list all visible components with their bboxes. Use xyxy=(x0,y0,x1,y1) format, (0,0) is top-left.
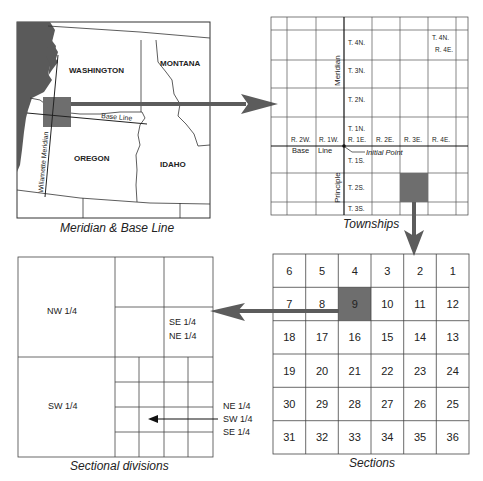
section-24: 24 xyxy=(447,365,459,377)
plss-diagram: WASHINGTON MONTANA OREGON IDAHO Base Lin… xyxy=(0,0,483,481)
map-caption: Meridian & Base Line xyxy=(60,221,174,235)
svg-text:T. 3S.: T. 3S. xyxy=(348,205,365,212)
arrow-townships-to-sections xyxy=(404,202,424,256)
state-label-oregon: OREGON xyxy=(74,154,110,163)
section-30: 30 xyxy=(283,398,295,410)
svg-text:T. 1S.: T. 1S. xyxy=(348,157,365,164)
state-label-montana: MONTANA xyxy=(160,59,201,68)
section-35: 35 xyxy=(414,431,426,443)
section-31: 31 xyxy=(283,431,295,443)
section-20: 20 xyxy=(316,365,328,377)
divisions-panel xyxy=(18,257,213,457)
township-t2s-r3e-highlight xyxy=(400,173,428,202)
svg-text:T. 4N.: T. 4N. xyxy=(348,39,365,46)
sections-panel: 6 5 4 3 2 1 7 8 9 10 11 12 18 17 16 15 1… xyxy=(273,254,469,470)
section-16: 16 xyxy=(349,331,361,343)
section-6: 6 xyxy=(286,265,292,277)
section-4: 4 xyxy=(352,265,358,277)
section-2: 2 xyxy=(417,265,423,277)
nw-quarter-label: NW 1/4 xyxy=(47,306,77,316)
section-26: 26 xyxy=(414,398,426,410)
section-19: 19 xyxy=(283,365,295,377)
division-labels: NW 1/4 SW 1/4 SE 1/4 NE 1/4 NE 1/4 SW 1/… xyxy=(47,306,253,437)
section-21: 21 xyxy=(349,365,361,377)
section-12: 12 xyxy=(447,298,459,310)
section-3: 3 xyxy=(384,265,390,277)
section-9: 9 xyxy=(352,298,358,310)
svg-text:R. 2E.: R. 2E. xyxy=(376,136,394,143)
section-15: 15 xyxy=(381,331,393,343)
svg-text:T. 3N.: T. 3N. xyxy=(348,67,365,74)
section-5: 5 xyxy=(319,265,325,277)
sections-caption: Sections xyxy=(349,456,395,470)
svg-text:R. 4E.: R. 4E. xyxy=(435,46,453,53)
section-25: 25 xyxy=(447,398,459,410)
base-label: Base xyxy=(292,146,309,155)
section-13: 13 xyxy=(447,331,459,343)
svg-text:T. 2N.: T. 2N. xyxy=(348,96,365,103)
section-27: 27 xyxy=(381,398,393,410)
ne-sw-se-label-3: SE 1/4 xyxy=(223,427,250,437)
section-1: 1 xyxy=(450,265,456,277)
svg-text:T. 2S.: T. 2S. xyxy=(348,184,365,191)
section-18: 18 xyxy=(283,331,295,343)
ne-sw-se-label-2: SW 1/4 xyxy=(223,414,253,424)
svg-text:R. 3E.: R. 3E. xyxy=(404,136,422,143)
initial-point-label: Initial Point xyxy=(366,148,404,157)
se-ne-label-2: NE 1/4 xyxy=(169,331,197,341)
svg-text:R. 1W.: R. 1W. xyxy=(319,136,339,143)
section-17: 17 xyxy=(316,331,328,343)
section-7: 7 xyxy=(286,298,292,310)
svg-text:T. 1N.: T. 1N. xyxy=(348,125,365,132)
svg-text:T. 4N.: T. 4N. xyxy=(432,34,449,41)
pointer-arrow xyxy=(148,415,218,423)
section-28: 28 xyxy=(349,398,361,410)
svg-text:R. 4E.: R. 4E. xyxy=(432,136,450,143)
principle-label: Principle xyxy=(333,172,342,203)
meridian-label: Meridian xyxy=(333,55,342,86)
section-32: 32 xyxy=(316,431,328,443)
township-highlight xyxy=(43,97,71,127)
section-29: 29 xyxy=(316,398,328,410)
svg-text:R. 2W.: R. 2W. xyxy=(291,136,311,143)
section-22: 22 xyxy=(381,365,393,377)
state-label-idaho: IDAHO xyxy=(160,160,186,169)
divisions-caption: Sectional divisions xyxy=(70,459,169,473)
townships-caption: Townships xyxy=(343,217,399,231)
line-label: Line xyxy=(318,146,332,155)
se-ne-label-1: SE 1/4 xyxy=(169,317,196,327)
ne-sw-se-label-1: NE 1/4 xyxy=(223,401,251,411)
map-panel: WASHINGTON MONTANA OREGON IDAHO Base Lin… xyxy=(17,22,210,235)
section-14: 14 xyxy=(414,331,426,343)
section-10: 10 xyxy=(381,298,393,310)
sw-quarter-label: SW 1/4 xyxy=(48,401,78,411)
section-34: 34 xyxy=(381,431,393,443)
section-33: 33 xyxy=(349,431,361,443)
section-23: 23 xyxy=(414,365,426,377)
section-8: 8 xyxy=(319,298,325,310)
state-label-washington: WASHINGTON xyxy=(69,66,124,75)
svg-text:R. 1E.: R. 1E. xyxy=(348,136,366,143)
section-36: 36 xyxy=(447,431,459,443)
section-11: 11 xyxy=(414,298,425,310)
